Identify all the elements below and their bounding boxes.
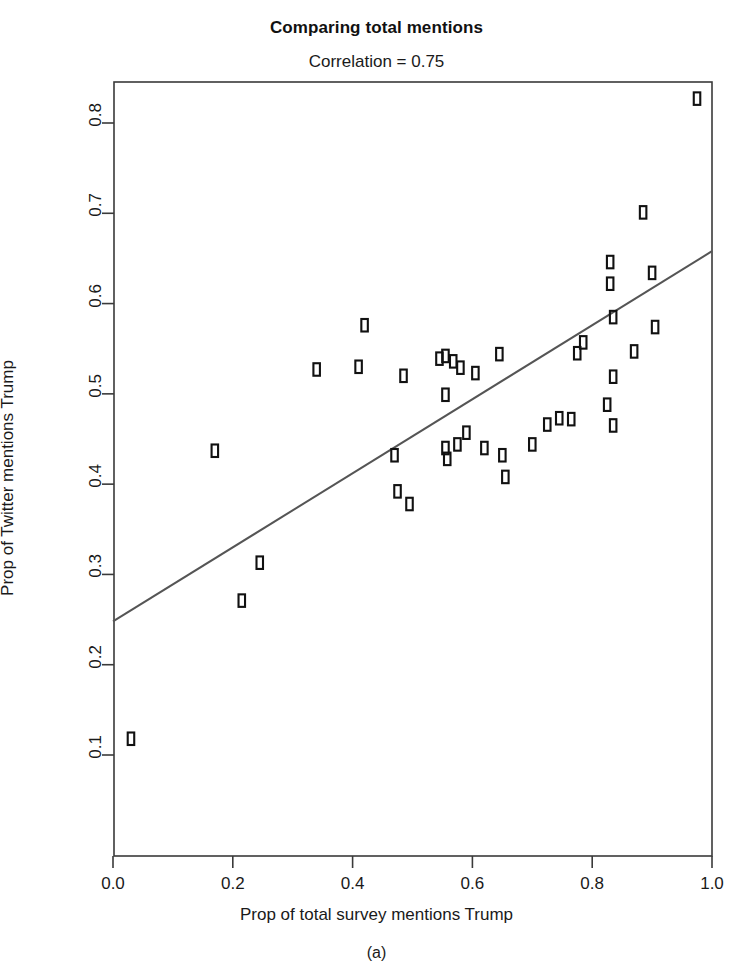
data-point	[544, 418, 551, 431]
y-tick-label: 0.2	[86, 645, 106, 685]
data-point	[394, 485, 401, 498]
data-point	[400, 370, 407, 383]
data-point	[463, 426, 470, 439]
scatter-plot	[0, 0, 753, 980]
x-tick-label: 0.0	[101, 874, 125, 894]
data-point	[556, 412, 563, 425]
data-point	[607, 256, 614, 268]
y-tick-label: 0.4	[86, 464, 106, 504]
data-point	[257, 556, 264, 569]
y-tick-label: 0.5	[86, 374, 106, 414]
data-point	[502, 471, 509, 484]
data-point	[128, 733, 135, 746]
data-point	[442, 350, 449, 363]
data-point	[529, 438, 536, 451]
data-point	[361, 319, 368, 332]
data-point	[640, 206, 647, 219]
data-point	[568, 413, 575, 426]
data-point	[610, 419, 617, 432]
y-tick-label: 0.6	[86, 284, 106, 324]
y-axis-label: Prop of Twitter mentions Trump	[0, 308, 18, 648]
data-point	[652, 321, 659, 334]
x-tick-label: 0.8	[580, 874, 604, 894]
x-axis-label: Prop of total survey mentions Trump	[0, 905, 753, 925]
data-point	[454, 438, 461, 451]
x-tick-label: 0.6	[461, 874, 485, 894]
data-point	[313, 363, 320, 376]
data-point	[239, 594, 246, 607]
y-tick-label: 0.8	[86, 103, 106, 143]
data-point	[649, 267, 656, 280]
data-point	[457, 361, 464, 374]
figure-container: Comparing total mentions Correlation = 0…	[0, 0, 753, 980]
data-point	[694, 92, 701, 105]
data-point	[355, 361, 362, 374]
data-point	[604, 398, 611, 411]
data-point	[496, 348, 503, 361]
data-point	[481, 442, 488, 455]
data-point	[580, 336, 587, 349]
x-tick-label: 1.0	[700, 874, 724, 894]
y-tick-label: 0.1	[86, 735, 106, 775]
data-point	[607, 277, 614, 290]
data-point	[499, 449, 506, 462]
data-point	[450, 355, 457, 368]
x-tick-label: 0.2	[221, 874, 245, 894]
data-point	[391, 449, 398, 462]
data-point	[610, 370, 617, 383]
data-point	[631, 345, 638, 358]
regression-line	[113, 251, 712, 621]
data-point	[212, 444, 219, 457]
y-tick-label: 0.3	[86, 554, 106, 594]
x-tick-label: 0.4	[341, 874, 365, 894]
axes-group	[102, 82, 712, 868]
data-points	[128, 92, 701, 745]
data-point	[472, 367, 479, 380]
data-point	[406, 498, 413, 511]
figure-caption: (a)	[0, 944, 753, 962]
y-tick-label: 0.7	[86, 193, 106, 233]
data-point	[442, 389, 449, 402]
